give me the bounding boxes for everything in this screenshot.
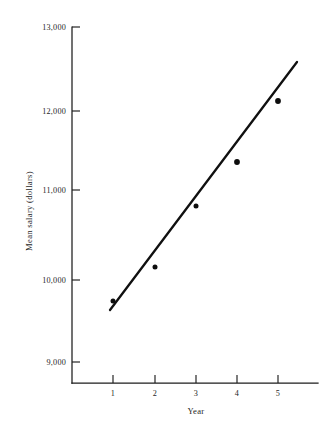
data-point-year-2	[153, 265, 158, 270]
x-tick-label-2: 2	[153, 389, 157, 398]
chart-figure: 13,000 12,000 11,000 10,000 9,000 1 2 3 …	[0, 0, 332, 433]
x-tick-label-5: 5	[276, 389, 280, 398]
data-point-group	[111, 98, 281, 303]
caption-fragment	[0, 419, 332, 433]
y-tick-label-12000: 12,000	[42, 107, 66, 116]
data-point-year-4	[234, 159, 240, 165]
x-axis-ticks	[113, 375, 278, 383]
scatter-plot-canvas: 13,000 12,000 11,000 10,000 9,000 1 2 3 …	[0, 0, 332, 433]
data-point-year-5	[275, 98, 281, 104]
y-tick-label-9000: 9,000	[47, 358, 66, 367]
x-axis-title: Year	[187, 406, 204, 416]
x-tick-label-4: 4	[235, 389, 239, 398]
regression-fit-line	[110, 62, 297, 310]
data-point-year-3	[194, 204, 199, 209]
y-axis-ticks	[72, 27, 80, 362]
x-axis-tick-labels: 1 2 3 4 5	[111, 389, 280, 398]
y-axis-title: Mean salary (dollars)	[24, 171, 34, 251]
y-tick-label-10000: 10,000	[42, 276, 66, 285]
x-tick-label-1: 1	[111, 389, 115, 398]
y-tick-label-13000: 13,000	[42, 23, 66, 32]
y-tick-label-11000: 11,000	[43, 186, 66, 195]
x-tick-label-3: 3	[194, 389, 198, 398]
y-axis-tick-labels: 13,000 12,000 11,000 10,000 9,000	[42, 23, 66, 367]
data-point-year-1	[111, 299, 116, 304]
